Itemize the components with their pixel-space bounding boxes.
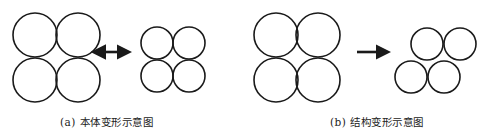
panel-b-original-circles	[254, 13, 340, 102]
caption-body-deformation: (a) 本体变形示意图	[60, 114, 153, 129]
panel-a-original-circles	[13, 13, 100, 102]
circle-shape	[141, 27, 173, 59]
circle-shape	[428, 61, 460, 93]
circle-shape	[411, 28, 443, 60]
circle-shape	[296, 58, 340, 102]
circle-shape	[13, 13, 57, 57]
circle-shape	[254, 13, 298, 57]
circle-shape	[173, 27, 205, 59]
circle-shape	[141, 60, 173, 92]
panel-a-shrunk-circles	[141, 27, 205, 92]
panel-b-restructured-circles	[395, 28, 476, 93]
circle-shape	[56, 13, 100, 57]
circle-shape	[444, 28, 476, 60]
circle-shape	[56, 58, 100, 102]
circle-shape	[13, 58, 57, 102]
circle-shape	[173, 60, 205, 92]
circle-shape	[254, 58, 298, 102]
deformation-diagram	[0, 0, 487, 130]
circle-shape	[395, 61, 427, 93]
caption-structural-deformation: (b) 结构变形示意图	[330, 114, 424, 129]
figure-canvas: (a) 本体变形示意图 (b) 结构变形示意图	[0, 0, 487, 130]
circle-shape	[296, 13, 340, 57]
